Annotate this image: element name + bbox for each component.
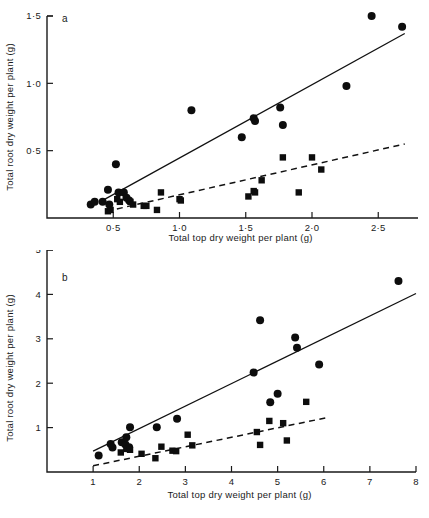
data-point-square (173, 448, 179, 454)
data-point-circle (368, 12, 376, 20)
axis-spines (47, 250, 416, 472)
x-tick-label: 2·5 (371, 222, 386, 233)
scatter-panel-a: 0·51·01·52·02·50·51·01·5Total top dry we… (0, 0, 429, 250)
x-tick-label: 6 (321, 476, 327, 487)
data-point-circle (95, 452, 103, 460)
data-point-circle (250, 369, 258, 377)
y-tick-label: 4 (35, 289, 41, 300)
data-point-circle (398, 23, 406, 31)
y-axis-title: Total root dry weight per plant (g) (4, 43, 15, 191)
data-point-square (152, 455, 158, 461)
data-point-circle (394, 277, 402, 285)
data-point-square (258, 177, 264, 183)
data-point-square (127, 447, 133, 453)
y-tick-label: 1 (35, 422, 41, 433)
data-point-square (130, 201, 136, 207)
data-point-circle (238, 133, 246, 141)
data-point-circle (293, 344, 301, 352)
data-point-square (257, 442, 263, 448)
data-point-square (117, 199, 123, 205)
x-axis-title: Total top dry weight per plant (g) (168, 232, 312, 243)
data-point-circle (126, 423, 134, 431)
data-point-circle (276, 104, 284, 112)
panel-label-a: a (62, 13, 68, 24)
y-tick-label: 3 (35, 333, 41, 344)
data-point-circle (266, 398, 274, 406)
data-point-square (143, 203, 149, 209)
data-point-circle (104, 186, 112, 194)
data-point-circle (279, 121, 287, 129)
data-point-circle (251, 117, 259, 125)
axis-spines (47, 16, 418, 218)
data-point-square (303, 399, 309, 405)
data-point-square (138, 451, 144, 457)
data-point-circle (342, 82, 350, 90)
y-tick-label: 1·5 (26, 10, 41, 21)
data-point-circle (315, 361, 323, 369)
data-point-square (280, 420, 286, 426)
data-point-circle (291, 333, 299, 341)
scatter-panel-b: 1234567812345Total top dry weight per pl… (0, 250, 429, 518)
data-point-circle (91, 198, 99, 206)
data-point-circle (256, 316, 264, 324)
data-point-square (118, 449, 124, 455)
data-point-square (107, 207, 113, 213)
data-point-square (280, 154, 286, 160)
data-point-square (158, 189, 164, 195)
data-point-square (296, 189, 302, 195)
x-tick-label: 3 (183, 476, 189, 487)
data-point-square (178, 197, 184, 203)
figure-root: 0·51·01·52·02·50·51·01·5Total top dry we… (0, 0, 429, 518)
data-point-circle (187, 106, 195, 114)
x-tick-label: 7 (367, 476, 373, 487)
x-tick-label: 8 (413, 476, 419, 487)
data-point-square (252, 189, 258, 195)
y-tick-label: 0·5 (26, 145, 41, 156)
x-tick-label: 0·5 (106, 222, 121, 233)
data-point-circle (112, 160, 120, 168)
data-point-square (284, 437, 290, 443)
x-tick-label: 2 (136, 476, 142, 487)
data-point-square (266, 418, 272, 424)
data-point-square (154, 207, 160, 213)
data-point-circle (122, 433, 130, 441)
data-point-square (254, 429, 260, 435)
x-axis-title: Total top dry weight per plant (g) (167, 489, 311, 500)
data-point-circle (108, 444, 116, 452)
data-point-square (189, 442, 195, 448)
x-tick-label: 4 (229, 476, 235, 487)
data-point-circle (173, 415, 181, 423)
data-point-circle (274, 390, 282, 398)
data-point-circle (153, 423, 161, 431)
y-axis-title: Total root dry weight per plant (g) (4, 294, 15, 442)
x-tick-label: 5 (275, 476, 281, 487)
y-tick-label: 1·0 (26, 78, 41, 89)
data-point-square (318, 166, 324, 172)
data-point-square (309, 154, 315, 160)
panel-a-plot: 0·51·01·52·02·50·51·01·5Total top dry we… (0, 0, 429, 250)
data-point-square (158, 443, 164, 449)
panel-b-plot: 1234567812345Total top dry weight per pl… (0, 250, 429, 518)
data-point-square (184, 432, 190, 438)
y-tick-label: 5 (35, 250, 41, 255)
regression-line-squares (107, 144, 405, 211)
y-tick-label: 2 (35, 378, 41, 389)
panel-label-b: b (62, 272, 68, 283)
x-tick-label: 1 (90, 476, 96, 487)
